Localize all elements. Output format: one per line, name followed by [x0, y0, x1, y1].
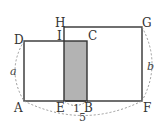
label-c: C: [88, 29, 97, 43]
label-e: E: [56, 101, 65, 115]
label-d: D: [14, 33, 24, 47]
label-side-b: b: [147, 60, 154, 73]
geometry-figure: D H I C G A E B F a b 1 5: [0, 0, 167, 132]
figure-canvas: D H I C G A E B F a b 1 5: [0, 0, 167, 132]
label-af-length: 5: [79, 111, 86, 124]
label-side-a: a: [10, 65, 17, 78]
label-h: H: [55, 16, 65, 30]
label-i: I: [57, 29, 62, 43]
label-f: F: [143, 101, 151, 115]
shaded-rectangle-ebci: [64, 41, 87, 101]
label-g: G: [142, 16, 152, 30]
label-a: A: [13, 101, 23, 115]
